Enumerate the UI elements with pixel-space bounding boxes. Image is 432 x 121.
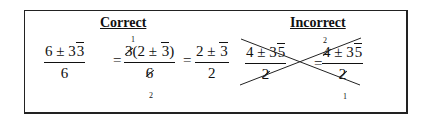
comparison-box: Correct Incorrect 6 ± 33 6 = 1 3(2 ± 3) …: [24, 10, 408, 114]
cross-out-mark: [25, 11, 409, 115]
